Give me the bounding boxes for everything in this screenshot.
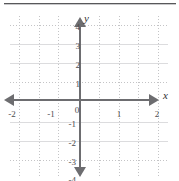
gridline-vertical	[119, 16, 120, 176]
gridline-vertical	[19, 16, 20, 176]
gridline-vertical	[99, 16, 100, 176]
gridline-horizontal	[10, 141, 168, 142]
x-axis-line	[12, 99, 152, 101]
gridline-horizontal	[10, 44, 168, 45]
x-axis-tick-label: 1	[110, 109, 128, 119]
x-axis-tick-label: 2	[148, 109, 166, 119]
gridline-vertical	[138, 16, 139, 176]
x-axis-tick-label: -1	[42, 109, 60, 119]
y-axis-tick-label: 3	[62, 41, 80, 51]
gridline-horizontal	[10, 122, 168, 123]
y-axis-tick-label: 1	[62, 79, 80, 89]
gridline-horizontal	[10, 25, 168, 26]
x-axis-name-label: x	[163, 90, 168, 101]
y-axis-tick-label: 4	[62, 22, 80, 32]
y-axis-tick-label: -3	[58, 157, 76, 167]
x-axis-tick-label: 0	[68, 105, 86, 115]
y-axis-tick-label: 2	[62, 60, 80, 70]
y-axis-tick-label: -4	[58, 175, 76, 181]
x-axis-arrow-left-icon	[4, 94, 14, 106]
top-divider-rule-shadow	[4, 4, 176, 5]
gridline-horizontal	[10, 160, 168, 161]
y-axis-tick-label: -1	[58, 119, 76, 129]
x-axis-arrow-right-icon	[149, 94, 159, 106]
gridline-horizontal	[10, 63, 168, 64]
gridline-vertical	[39, 16, 40, 176]
coordinate-plane-figure: -2-1012 4321-1-2-3-4 x y	[0, 0, 179, 181]
gridline-horizontal	[10, 82, 168, 83]
x-axis-tick-label: -2	[3, 109, 21, 119]
y-axis-tick-label: -2	[58, 138, 76, 148]
y-axis-name-label: y	[84, 13, 89, 24]
plot-area: -2-1012 4321-1-2-3-4 x y	[0, 8, 179, 181]
gridline-vertical	[58, 16, 59, 176]
